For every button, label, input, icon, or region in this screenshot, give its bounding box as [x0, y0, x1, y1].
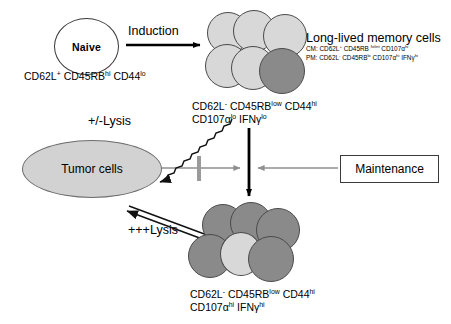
partial-lysis-arrow — [160, 119, 232, 182]
naive-cell: Naive — [54, 18, 119, 75]
tumor-to-effector-arrow — [160, 156, 240, 181]
memory-phenotype-line1: CD62L- CD45RBlow CD44hi — [192, 100, 317, 113]
tumor-cells-label: Tumor cells — [61, 162, 123, 176]
memory-pm-subtype-label: PM: CD62L- CD45RBlo CD107αhi IFNγhi — [306, 54, 418, 63]
effector-phenotype-line2: CD107αhi IFNγhi — [190, 301, 265, 314]
naive-phenotype-label: CD62L+ CD45RBhi CD44lo — [24, 70, 146, 83]
effector-cell-cluster — [188, 202, 303, 284]
tumor-cells: Tumor cells — [22, 140, 162, 198]
memory-cell-effector-subset — [259, 48, 305, 94]
diagram-canvas: Naive CD62L+ CD45RBhi CD44lo Induction L… — [0, 0, 451, 324]
strong-lysis-label: +++Lysis — [128, 222, 178, 238]
maintenance-box: Maintenance — [340, 155, 439, 183]
effector-phenotype-line1: CD62L- CD45RBlow CD44hi — [190, 288, 315, 301]
effector-cell — [248, 236, 294, 282]
memory-cell-cluster — [205, 10, 315, 96]
induction-label: Induction — [128, 23, 179, 39]
naive-cell-label: Naive — [72, 41, 101, 53]
memory-phenotype-line2: CD107αlo IFNγlo — [192, 113, 267, 126]
partial-lysis-label: +/-Lysis — [88, 113, 131, 129]
maintenance-label: Maintenance — [355, 162, 424, 176]
memory-cm-subtype-label: CM: CD62L+ CD45RB hi/int CD107αhi — [306, 45, 408, 54]
